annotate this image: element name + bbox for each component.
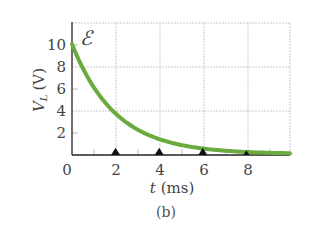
- x-axis-label: t(ms): [150, 179, 195, 197]
- y-tick-6: 6: [56, 80, 66, 98]
- x-tick-0: 0: [62, 161, 72, 179]
- x-tick-2: 2: [111, 161, 121, 179]
- y-tick-2: 2: [56, 124, 66, 142]
- x-label-unit: (ms): [161, 179, 195, 197]
- triangle-marker: [155, 148, 164, 155]
- x-tick-4: 4: [155, 161, 165, 179]
- x-tick-8: 8: [243, 161, 253, 179]
- grid: [72, 23, 290, 155]
- y-axis-label: VL(V): [30, 68, 49, 112]
- y-label-sub: L: [38, 94, 49, 102]
- vl-curve: [72, 44, 290, 153]
- y-label-unit: (V): [30, 68, 48, 91]
- x-tick-labels: 0 2 4 6 8: [62, 161, 253, 179]
- x-tick-6: 6: [199, 161, 209, 179]
- x-label-var: t: [150, 179, 157, 197]
- y-tick-8: 8: [56, 58, 66, 76]
- axes: [72, 22, 290, 155]
- y-tick-10: 10: [47, 36, 66, 54]
- svg-text:VL(V): VL(V): [30, 68, 49, 112]
- emf-annotation: ℰ: [80, 26, 94, 50]
- y-tick-labels: 10 8 6 4 2: [47, 36, 66, 142]
- triangle-marker: [111, 148, 120, 155]
- figure-caption: (b): [156, 204, 176, 220]
- vl-decay-chart: 10 8 6 4 2 0 2 4 6 8 ℰ VL(V) t(ms) (b): [0, 0, 309, 240]
- y-tick-4: 4: [56, 102, 66, 120]
